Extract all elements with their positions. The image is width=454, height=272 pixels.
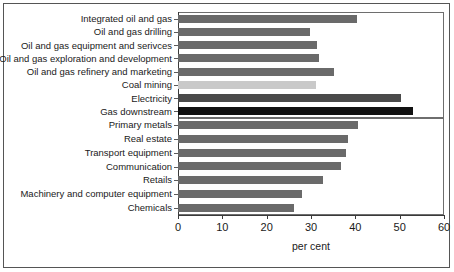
category-label: Retails xyxy=(143,173,172,187)
x-axis-tick xyxy=(355,215,356,219)
x-axis-title: per cent xyxy=(178,240,444,252)
bar xyxy=(178,176,323,184)
x-axis-tick xyxy=(222,215,223,219)
bar xyxy=(178,135,348,143)
bar xyxy=(178,41,317,49)
category-label: Oil and gas exploration and development xyxy=(0,52,172,65)
x-axis-tick xyxy=(400,215,401,219)
category-label: Machinery and computer equipment xyxy=(20,187,172,201)
bar xyxy=(178,54,319,62)
bar xyxy=(178,121,358,129)
category-label: Coal mining xyxy=(122,78,172,91)
category-label: Oil and gas drilling xyxy=(94,25,172,38)
category-label: Chemicals xyxy=(128,201,172,215)
x-axis-tick xyxy=(178,215,179,219)
category-label: Real estate xyxy=(124,132,172,146)
x-axis-tick-label: 0 xyxy=(175,221,181,233)
x-axis-tick-label: 30 xyxy=(305,221,317,233)
bar xyxy=(178,204,294,212)
category-label: Transport equipment xyxy=(85,146,172,160)
category-label: Communication xyxy=(106,160,172,174)
x-axis-tick-label: 10 xyxy=(216,221,228,233)
bar xyxy=(178,81,316,89)
x-axis-tick-label: 20 xyxy=(261,221,273,233)
bar xyxy=(178,94,401,102)
x-axis-tick-label: 60 xyxy=(438,221,450,233)
x-axis-tick-label: 40 xyxy=(349,221,361,233)
bar xyxy=(178,149,346,157)
bar xyxy=(178,28,310,36)
x-axis-tick-label: 50 xyxy=(394,221,406,233)
category-label: Electricity xyxy=(131,92,172,105)
bar xyxy=(178,107,413,115)
bar xyxy=(178,162,341,170)
x-axis-tick xyxy=(444,215,445,219)
bar xyxy=(178,68,334,76)
category-label: Oil and gas equipment and serivces xyxy=(21,39,172,52)
x-axis-tick xyxy=(311,215,312,219)
bar xyxy=(178,190,302,198)
category-label: Oil and gas refinery and marketing xyxy=(27,65,172,78)
category-label: Primary metals xyxy=(109,118,172,132)
bar xyxy=(178,15,357,23)
plot-area xyxy=(178,12,444,215)
category-label: Integrated oil and gas xyxy=(81,12,172,25)
category-label: Gas downstream xyxy=(100,105,172,118)
x-axis-tick xyxy=(267,215,268,219)
